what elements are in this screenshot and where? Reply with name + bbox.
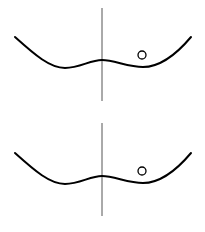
potential-curve: [15, 153, 191, 184]
potential-curve: [15, 37, 191, 68]
diagram-canvas: [0, 0, 205, 232]
panel-bottom: [15, 123, 191, 216]
ball-marker: [138, 167, 146, 175]
ball-marker: [138, 51, 146, 59]
panel-top: [15, 8, 191, 101]
double-well-diagram: [0, 0, 205, 232]
